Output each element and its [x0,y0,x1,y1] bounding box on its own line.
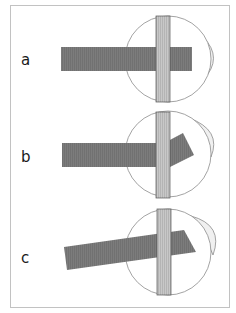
figure-canvas: a b c [0,0,236,313]
panel-c: c [21,209,216,295]
vertical-band [157,209,171,295]
panel-label-b: b [21,148,31,166]
vertical-band [156,16,170,102]
panel-b: b [21,111,214,198]
muscle-bar [61,47,192,71]
panel-label-c: c [21,249,29,267]
muscle-bar [62,143,162,167]
panel-a: a [21,16,214,102]
panel-label-a: a [21,51,30,69]
vertical-band [156,112,170,198]
